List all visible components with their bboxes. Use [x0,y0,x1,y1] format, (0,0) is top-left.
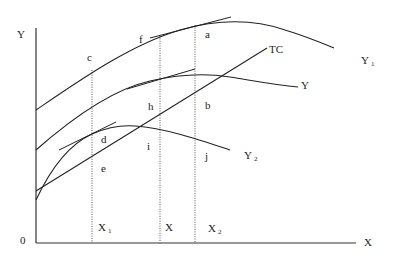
point-d-label: d [101,133,107,145]
x-marker-label: X [165,221,173,233]
y1-curve [36,22,334,110]
y-axis-label: Y [17,28,25,40]
point-b-label: b [205,99,211,111]
tangent-at-d [59,122,116,150]
point-j-label: j [204,150,208,162]
y2-curve-label: Y2 [244,149,258,163]
y2-curve [36,126,230,200]
y-curve [36,75,298,150]
point-e-label: e [101,162,106,174]
x2-label: X2 [208,222,222,236]
point-i-label: i [147,140,150,152]
point-a-label: a [205,28,210,40]
point-c-label: c [87,51,92,63]
x-axis-label: X [364,236,372,248]
x1-label: X1 [98,221,112,235]
point-h-label: h [148,100,154,112]
tc-label: TC [269,43,283,55]
tangent-at-f [150,17,231,38]
tangent-on-y [127,69,195,89]
production-cost-diagram: Y X 0 Y1 Y Y2 TC X1 X X2 a b c d e f h i… [0,0,394,263]
point-f-label: f [139,33,143,45]
tc-line [36,48,267,191]
y-curve-label: Y [301,79,309,91]
origin-label: 0 [20,234,26,246]
y1-curve-label: Y1 [361,54,375,68]
